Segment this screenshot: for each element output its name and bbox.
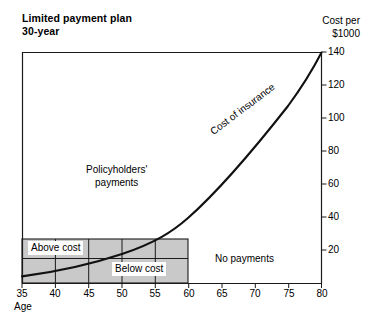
x-tick-label-50: 50 — [107, 288, 137, 299]
x-tick-label-40: 40 — [40, 288, 70, 299]
annotation-policyholders-line-2: payments — [86, 177, 147, 190]
x-tick-label-35: 35 — [7, 288, 37, 299]
annotation-policyholders-line-1: Policyholders' — [86, 164, 147, 177]
x-tick-label-60: 60 — [174, 288, 204, 299]
y-tick-label-120: 120 — [328, 79, 345, 91]
annotation-above-cost: Above cost — [28, 241, 83, 255]
x-axis-title: Age — [14, 301, 32, 312]
x-tick-label-70: 70 — [240, 288, 270, 299]
insurance-cost-chart: Limited payment plan 30-year Cost per $1… — [0, 0, 366, 327]
y-tick-label-100: 100 — [328, 112, 345, 124]
y-tick-label-20: 20 — [328, 244, 339, 256]
x-tick-label-45: 45 — [74, 288, 104, 299]
y-tick-label-60: 60 — [328, 178, 339, 190]
annotation-no-payments: No payments — [215, 253, 274, 266]
plot-area — [0, 0, 366, 327]
annotation-below-cost: Below cost — [112, 262, 166, 276]
y-tick-label-140: 140 — [328, 46, 345, 58]
x-tick-label-75: 75 — [274, 288, 304, 299]
x-tick-label-65: 65 — [207, 288, 237, 299]
y-tick-label-80: 80 — [328, 145, 339, 157]
x-tick-label-80: 80 — [307, 288, 337, 299]
y-tick-label-40: 40 — [328, 211, 339, 223]
annotation-policyholders-payments: Policyholders' payments — [86, 164, 147, 189]
x-tick-label-55: 55 — [140, 288, 170, 299]
